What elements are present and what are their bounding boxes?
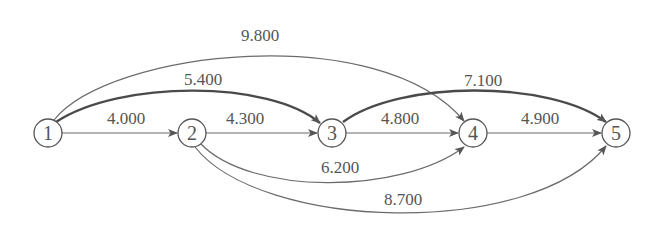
node-2: 2 xyxy=(178,119,206,147)
edge-label-2-5: 8.700 xyxy=(384,190,422,209)
edge-label-1-2: 4.000 xyxy=(107,109,145,128)
node-3: 3 xyxy=(318,119,346,147)
edge-label-3-5: 7.100 xyxy=(464,71,502,90)
node-label-1: 1 xyxy=(43,122,53,144)
edge-label-2-4: 6.200 xyxy=(321,158,359,177)
edge-label-1-4: 9.800 xyxy=(241,26,279,45)
node-label-5: 5 xyxy=(611,122,621,144)
edge-1-3 xyxy=(56,91,320,123)
diagram-svg: 4.000 4.300 4.800 4.900 5.400 7.100 9.80… xyxy=(0,0,665,230)
edge-label-1-3: 5.400 xyxy=(184,70,222,89)
node-5: 5 xyxy=(602,119,630,147)
node-1: 1 xyxy=(34,119,62,147)
node-label-4: 4 xyxy=(468,122,478,144)
node-label-2: 2 xyxy=(187,122,197,144)
network-diagram: 4.000 4.300 4.800 4.900 5.400 7.100 9.80… xyxy=(0,0,665,230)
edge-label-4-5: 4.900 xyxy=(521,109,559,128)
node-label-3: 3 xyxy=(327,122,337,144)
node-4: 4 xyxy=(459,119,487,147)
edge-label-3-4: 4.800 xyxy=(381,109,419,128)
edge-label-2-3: 4.300 xyxy=(226,109,264,128)
